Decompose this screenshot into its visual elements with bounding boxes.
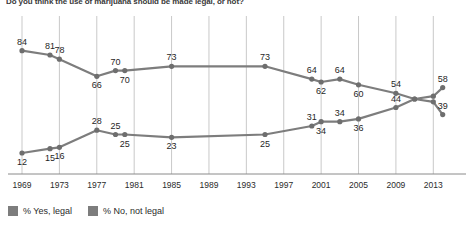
data-point-label: 70 — [120, 75, 130, 85]
legend-label-yes: % Yes, legal — [23, 206, 72, 216]
data-point — [19, 150, 24, 155]
plot-svg: 8481786670707373646264605439121516282525… — [0, 10, 474, 178]
x-axis-tick-label: 1993 — [237, 180, 256, 190]
data-point — [319, 79, 324, 84]
data-point — [309, 123, 314, 128]
data-point — [169, 135, 174, 140]
x-axis-labels: 1969197319771981198519891993199720012005… — [0, 180, 474, 194]
data-point — [337, 119, 342, 124]
data-point-label: 73 — [260, 52, 270, 62]
data-point — [262, 64, 267, 69]
data-point — [309, 77, 314, 82]
data-point-label: 84 — [17, 37, 27, 47]
series-line — [22, 51, 443, 115]
data-point — [47, 52, 52, 57]
x-axis-tick-label: 2005 — [349, 180, 368, 190]
data-point — [19, 48, 24, 53]
data-point-label: 64 — [335, 65, 345, 75]
data-point — [356, 82, 361, 87]
chart-legend: % Yes, legal % No, not legal — [8, 206, 164, 216]
data-point — [47, 146, 52, 151]
data-point-label: 28 — [92, 116, 102, 126]
data-point — [113, 68, 118, 73]
x-axis-tick-label: 1973 — [50, 180, 69, 190]
x-axis-tick-label: 1989 — [200, 180, 219, 190]
data-point — [431, 99, 436, 104]
data-point — [440, 112, 445, 117]
legend-label-no: % No, not legal — [103, 206, 164, 216]
series-layer — [19, 48, 445, 155]
x-axis-tick-label: 1985 — [162, 180, 181, 190]
data-point-label: 64 — [307, 65, 317, 75]
line-chart: Do you think the use of marijuana should… — [0, 0, 474, 228]
series-line — [22, 88, 443, 153]
data-point — [57, 57, 62, 62]
plot-area: 8481786670707373646264605439121516282525… — [0, 10, 474, 178]
data-point — [319, 119, 324, 124]
data-point — [440, 85, 445, 90]
data-point — [262, 132, 267, 137]
data-labels: 8481786670707373646264605439121516282525… — [17, 37, 448, 167]
data-point-label: 31 — [307, 112, 317, 122]
data-point-label: 25 — [120, 139, 130, 149]
data-point-label: 25 — [260, 139, 270, 149]
data-point-label: 54 — [391, 79, 401, 89]
data-point — [113, 132, 118, 137]
data-point — [431, 94, 436, 99]
data-point-label: 23 — [167, 141, 177, 151]
x-axis-tick-label: 2009 — [386, 180, 405, 190]
data-point-label: 34 — [316, 126, 326, 136]
data-point — [122, 68, 127, 73]
chart-title: Do you think the use of marijuana should… — [6, 0, 244, 6]
data-point — [122, 132, 127, 137]
data-point — [356, 116, 361, 121]
data-point-label: 39 — [438, 101, 448, 111]
data-point-label: 66 — [92, 80, 102, 90]
data-point-label: 25 — [110, 121, 120, 131]
data-point — [94, 74, 99, 79]
legend-swatch-yes — [8, 206, 18, 216]
data-point-label: 58 — [438, 74, 448, 84]
x-axis-tick-label: 2013 — [424, 180, 443, 190]
x-axis-tick-label: 1977 — [87, 180, 106, 190]
data-point — [169, 64, 174, 69]
legend-swatch-no — [88, 206, 98, 216]
data-point-label: 60 — [353, 89, 363, 99]
x-axis-tick-label: 2001 — [312, 180, 331, 190]
x-axis-tick-label: 1969 — [13, 180, 32, 190]
x-axis-tick-label: 1981 — [125, 180, 144, 190]
data-point-label: 16 — [54, 151, 64, 161]
data-point — [337, 77, 342, 82]
data-point — [412, 96, 417, 101]
x-axis-tick-label: 1997 — [274, 180, 293, 190]
data-point — [393, 105, 398, 110]
data-point-label: 12 — [17, 157, 27, 167]
data-point-label: 62 — [316, 86, 326, 96]
legend-item-yes: % Yes, legal — [8, 206, 72, 216]
gridlines — [22, 16, 433, 174]
data-point-label: 73 — [167, 52, 177, 62]
data-point — [94, 128, 99, 133]
data-point-label: 44 — [391, 94, 401, 104]
data-point-label: 36 — [353, 123, 363, 133]
data-point-label: 78 — [54, 45, 64, 55]
data-point — [57, 145, 62, 150]
data-point-label: 70 — [110, 57, 120, 67]
legend-item-no: % No, not legal — [88, 206, 164, 216]
data-point-label: 34 — [335, 108, 345, 118]
